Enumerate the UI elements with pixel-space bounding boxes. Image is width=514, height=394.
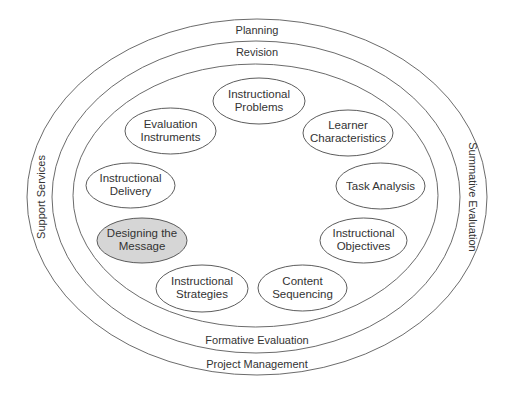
node-instructional-strategies: Instructional Strategies <box>156 265 248 312</box>
node-designing-the-message: Designing the Message <box>97 218 187 263</box>
node-label: Instruments <box>140 131 200 143</box>
node-label: Instructional <box>171 275 233 287</box>
node-label: Designing the <box>107 227 177 239</box>
node-label: Objectives <box>337 240 391 252</box>
summative-evaluation-label: Summative Evaluation <box>467 142 479 251</box>
node-label: Learner <box>328 119 368 131</box>
node-instructional-delivery: Instructional Delivery <box>86 163 175 208</box>
instructional-design-model-diagram: Planning Revision Formative Evaluation P… <box>0 0 514 394</box>
node-content-sequencing: Content Sequencing <box>258 265 347 311</box>
node-label: Instructional <box>228 88 290 100</box>
node-label: Content <box>282 275 323 287</box>
node-label: Task Analysis <box>346 180 415 192</box>
node-label: Problems <box>235 101 284 113</box>
node-learner-characteristics: Learner Characteristics <box>303 110 393 156</box>
node-evaluation-instruments: Evaluation Instruments <box>125 108 216 154</box>
revision-label: Revision <box>236 46 278 58</box>
node-label: Message <box>119 240 166 252</box>
node-label: Strategies <box>176 288 228 300</box>
node-label: Instructional <box>99 172 161 184</box>
node-label: Instructional <box>332 227 394 239</box>
project-management-label: Project Management <box>206 358 308 370</box>
support-services-label: Support Services <box>35 155 47 239</box>
planning-label: Planning <box>236 24 279 36</box>
node-instructional-objectives: Instructional Objectives <box>320 218 407 263</box>
node-label: Delivery <box>110 185 152 197</box>
node-label: Characteristics <box>310 132 386 144</box>
formative-evaluation-label: Formative Evaluation <box>205 334 308 346</box>
node-label: Sequencing <box>272 288 333 300</box>
node-label: Evaluation <box>144 118 198 130</box>
node-instructional-problems: Instructional Problems <box>213 78 305 124</box>
node-task-analysis: Task Analysis <box>336 163 425 209</box>
